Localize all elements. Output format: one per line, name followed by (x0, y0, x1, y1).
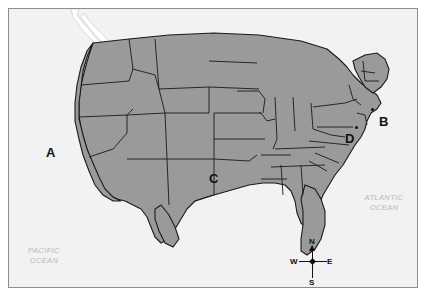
map-marker-b[interactable]: B (379, 115, 388, 128)
us-reference-map-figure: A B C D PACIFIC OCEAN ATLANTIC OCEAN N E… (0, 0, 428, 297)
map-marker-b-dot (371, 108, 374, 111)
map-frame: A B C D PACIFIC OCEAN ATLANTIC OCEAN N E… (8, 8, 418, 288)
map-marker-d-dot (355, 126, 358, 129)
atlantic-ocean-label: ATLANTIC OCEAN (353, 193, 415, 213)
compass-center-hub-icon (309, 258, 316, 265)
compass-north-label: N (309, 237, 315, 246)
map-marker-c[interactable]: C (209, 172, 218, 185)
compass-rose: N E S W (290, 237, 336, 287)
compass-west-label: W (290, 257, 298, 266)
us-outline-fill (79, 33, 381, 243)
map-marker-a[interactable]: A (46, 146, 55, 159)
compass-east-label: E (327, 257, 332, 266)
pacific-ocean-label: PACIFIC OCEAN (15, 246, 73, 266)
map-marker-d[interactable]: D (345, 132, 354, 145)
compass-south-label: S (309, 278, 314, 287)
